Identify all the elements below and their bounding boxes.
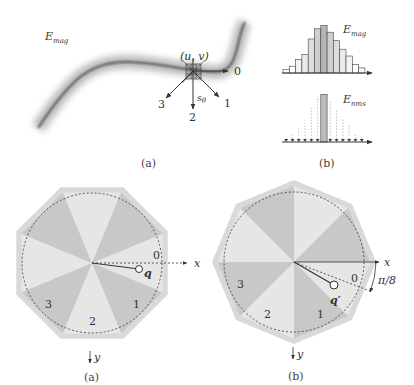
axis-y-label-b: y — [296, 348, 304, 361]
sector-label-1-a: 1 — [133, 298, 140, 311]
hist-label-emag: Emag — [342, 23, 367, 38]
field-label-emag: Emag — [44, 30, 69, 45]
hist-bar — [333, 41, 339, 73]
caption-top-b: (b) — [319, 157, 335, 170]
octagon-panel-b: x y π/8 q′ 0 1 2 3 (b) — [212, 180, 396, 383]
direction-label-3: 3 — [158, 98, 165, 111]
hist-bar — [296, 59, 302, 73]
point-label-q: q — [144, 267, 152, 280]
caption-top-a: (a) — [141, 157, 156, 170]
direction-label-1: 1 — [224, 97, 231, 110]
histogram-panel: Emag Enms (b) — [282, 23, 372, 170]
hist-bar — [346, 56, 352, 73]
axis-x-label-a: x — [194, 257, 201, 270]
hist-bar — [289, 66, 295, 73]
figure-canvas: Emag (u, v) 0 1 2 3 sθ (a) Emag — [0, 0, 414, 385]
sector-label-3-a: 3 — [45, 298, 52, 311]
sector-label-2-b: 2 — [264, 308, 271, 321]
nms-peak-bar — [321, 94, 327, 142]
point-label-uv: (u, v) — [180, 50, 209, 63]
sector-label-3-b: 3 — [237, 278, 244, 291]
point-q — [136, 266, 143, 273]
direction-label-2: 2 — [189, 111, 196, 124]
hist-bar — [340, 49, 346, 73]
point-q-prime — [330, 281, 338, 289]
hist-bar — [359, 68, 365, 73]
edge-curve-halo — [38, 22, 245, 128]
point-label-q-prime: q′ — [330, 294, 341, 307]
angle-label: π/8 — [377, 274, 396, 287]
sector-label-0-b: 0 — [351, 272, 358, 285]
direction-label-0: 0 — [234, 65, 241, 78]
nms-label-enms: Enms — [342, 93, 366, 108]
sector-label-1-b: 1 — [317, 308, 324, 321]
edge-magnitude-panel: Emag (u, v) 0 1 2 3 sθ (a) — [38, 22, 245, 170]
sector-label-2-a: 2 — [89, 315, 96, 328]
hist-bar — [321, 25, 327, 73]
hist-bar — [302, 54, 308, 73]
caption-bottom-b: (b) — [288, 370, 304, 383]
hist-bar — [283, 70, 289, 73]
hist-bar — [315, 29, 321, 73]
step-label: sθ — [197, 93, 207, 105]
hist-bar — [352, 65, 358, 74]
octagon-panel-a: x y q 0 1 2 3 (a) — [16, 187, 201, 384]
hist-bar — [327, 32, 333, 73]
sector-label-0-a: 0 — [153, 249, 160, 262]
hist-bar — [308, 39, 314, 73]
caption-bottom-a: (a) — [84, 371, 99, 384]
axis-x-label-b: x — [384, 256, 391, 269]
axis-y-label-a: y — [93, 351, 101, 364]
